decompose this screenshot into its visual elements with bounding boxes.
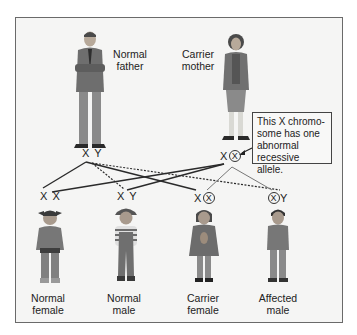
circled-x: X [268,192,280,204]
mother-chromosomes: XX [220,150,241,162]
father-label: Normal father [106,48,154,72]
child-4-label: Affected male [254,292,302,316]
child-1-label: Normal female [26,292,70,316]
child-2-label: Normal male [102,292,146,316]
normal-female-child-figure [30,208,70,286]
mother-label: Carrier mother [176,48,220,72]
circled-x: X [203,192,215,204]
child-1-chromosomes: X X [40,190,61,202]
child-4-chromosomes: XY [267,192,288,204]
line-mother-abnormal-x-to-carrier-female [207,167,232,190]
line-father-x-to-normal-female [43,162,86,188]
mother-normal-x: X [220,150,228,162]
mother-abnormal-x-circled: X [229,150,241,162]
father-chromosomes: X Y [82,147,103,159]
affected-male-child-figure [260,206,296,286]
callout-box: This X chromo- some has one abnormal rec… [252,112,332,164]
normal-male-child-figure [108,206,144,286]
mother-figure [216,32,256,146]
carrier-female-child-figure [184,206,224,286]
child-3-label: Carrier female [181,292,225,316]
child-3-chromosomes: XX [194,192,215,204]
line-mother-x-to-normal-female [52,164,224,192]
child-2-chromosomes: X Y [117,190,138,202]
